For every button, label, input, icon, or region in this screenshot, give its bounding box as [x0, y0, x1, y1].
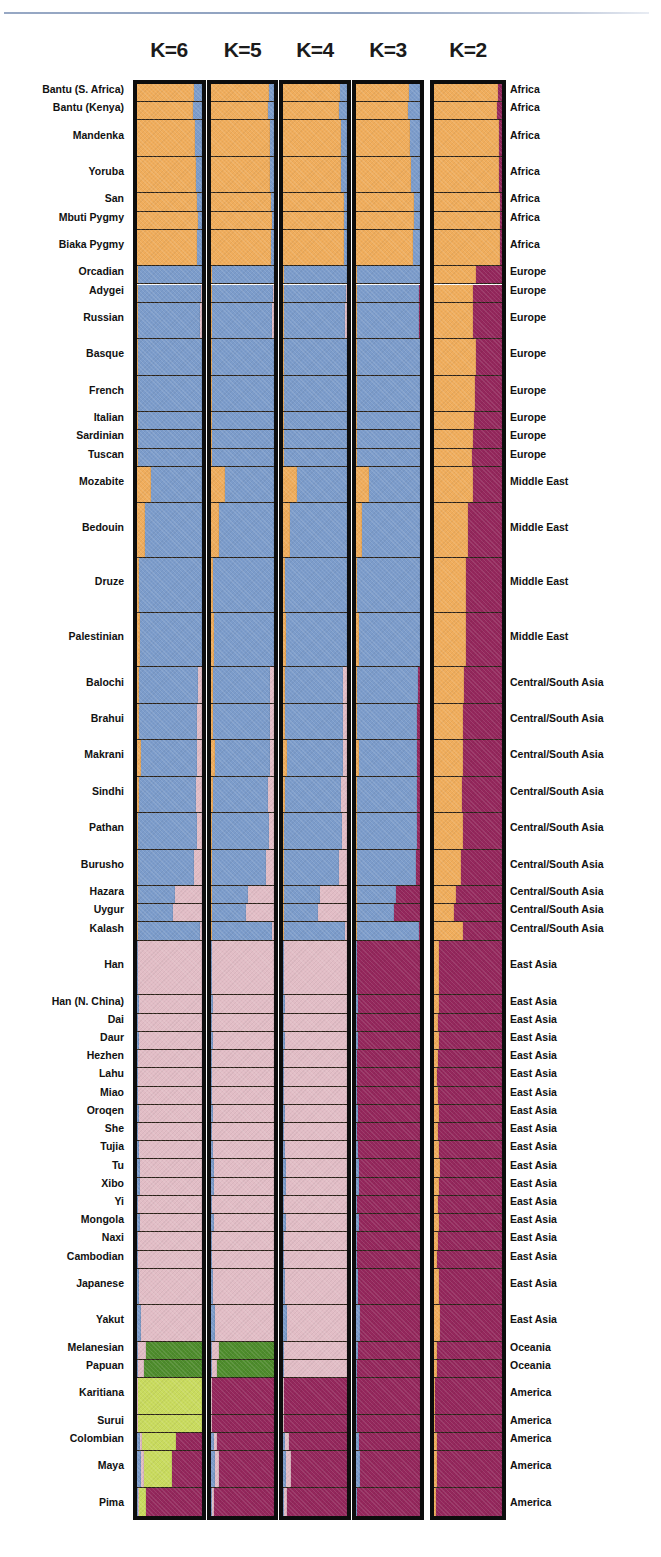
panel-k6-plot-area [137, 84, 202, 1516]
ancestry-bar-block [356, 1087, 420, 1105]
population-label: Sardinian [76, 430, 124, 441]
ancestry-segment [211, 212, 272, 229]
ancestry-segment [462, 777, 502, 812]
ancestry-bar-block [283, 1342, 347, 1360]
ancestry-bar-block [137, 84, 202, 102]
ancestry-segment [357, 704, 417, 739]
ancestry-bar-block [356, 503, 420, 558]
ancestry-segment [437, 1433, 502, 1450]
ancestry-bar-block [434, 1123, 502, 1141]
population-label: Mozabite [79, 476, 124, 487]
ancestry-segment [466, 558, 502, 612]
region-label: East Asia [510, 1105, 557, 1116]
region-label: East Asia [510, 1250, 557, 1261]
ancestry-segment [362, 503, 420, 557]
ancestry-segment [289, 1433, 347, 1450]
ancestry-bar-block [356, 704, 420, 740]
ancestry-bar-block [434, 1214, 502, 1232]
ancestry-segment [139, 1488, 146, 1516]
ancestry-segment [284, 1360, 347, 1377]
ancestry-segment [138, 412, 202, 429]
ancestry-segment [284, 449, 347, 466]
ancestry-bar-block [283, 339, 347, 375]
ancestry-segment [358, 1032, 420, 1049]
ancestry-bar-block [434, 449, 502, 467]
ancestry-segment [138, 1342, 146, 1359]
ancestry-bar-block [137, 1251, 202, 1269]
ancestry-bar-block [434, 995, 502, 1013]
ancestry-segment [283, 120, 341, 155]
ancestry-segment [213, 1141, 274, 1158]
ancestry-bar-block [137, 430, 202, 448]
ancestry-bar-block [434, 850, 502, 886]
ancestry-bar-block [137, 995, 202, 1013]
ancestry-segment [463, 704, 502, 739]
ancestry-segment [214, 1159, 274, 1176]
ancestry-bar-block [137, 1050, 202, 1068]
ancestry-bar-block [356, 558, 420, 613]
ancestry-segment [344, 230, 347, 265]
ancestry-bar-block [434, 412, 502, 430]
ancestry-segment [434, 157, 499, 192]
ancestry-segment [357, 558, 420, 612]
ancestry-bar-block [211, 704, 274, 740]
ancestry-segment [284, 430, 347, 447]
ancestry-bar-block [434, 740, 502, 776]
population-label: Yakut [96, 1314, 124, 1325]
ancestry-segment [285, 704, 343, 739]
ancestry-bar-block [434, 1342, 502, 1360]
ancestry-segment [439, 941, 502, 995]
ancestry-segment [284, 303, 345, 338]
population-label: Tujia [100, 1141, 124, 1152]
population-label: Hazara [90, 886, 124, 897]
ancestry-segment [284, 922, 345, 939]
ancestry-bar-block [211, 157, 274, 193]
ancestry-bar-block [283, 1488, 347, 1516]
ancestry-segment [140, 1159, 202, 1176]
ancestry-bar-block [137, 740, 202, 776]
ancestry-bar-block [211, 1269, 274, 1305]
ancestry-segment [437, 1251, 502, 1268]
ancestry-bar-block [137, 467, 202, 503]
population-label: Brahui [91, 713, 124, 724]
ancestry-segment [144, 1360, 202, 1377]
ancestry-segment [358, 1342, 420, 1359]
ancestry-bar-block [283, 1050, 347, 1068]
ancestry-bar-block [283, 376, 347, 412]
ancestry-segment [213, 1269, 274, 1304]
region-label: East Asia [510, 1123, 557, 1134]
ancestry-segment [357, 1123, 420, 1140]
region-label: Middle East [510, 576, 568, 587]
ancestry-segment [212, 430, 274, 447]
ancestry-segment [285, 1032, 347, 1049]
ancestry-bar-block [434, 1251, 502, 1269]
ancestry-bar-block [283, 467, 347, 503]
ancestry-segment [343, 704, 347, 739]
ancestry-segment [434, 339, 476, 374]
ancestry-bar-block [283, 412, 347, 430]
ancestry-bar-block [434, 157, 502, 193]
ancestry-segment [137, 84, 194, 101]
ancestry-bar-block [211, 813, 274, 849]
ancestry-segment [138, 1068, 202, 1085]
population-label: Sindhi [92, 786, 124, 797]
ancestry-segment [284, 1014, 347, 1031]
ancestry-segment [343, 740, 347, 775]
ancestry-segment [151, 467, 202, 502]
ancestry-segment [212, 922, 272, 939]
ancestry-segment [284, 1087, 347, 1104]
ancestry-bar-block [356, 1014, 420, 1032]
ancestry-bar-block [434, 1378, 502, 1414]
ancestry-segment [434, 285, 473, 302]
ancestry-bar-block [356, 1305, 420, 1341]
ancestry-bar-block [211, 777, 274, 813]
ancestry-bar-block [211, 1360, 274, 1378]
ancestry-segment [285, 1141, 347, 1158]
ancestry-bar-block [211, 1232, 274, 1250]
region-label: East Asia [510, 1196, 557, 1207]
ancestry-segment [434, 120, 499, 155]
ancestry-segment [212, 1050, 274, 1067]
ancestry-bar-block [211, 339, 274, 375]
ancestry-segment [417, 740, 420, 775]
ancestry-segment [357, 266, 420, 283]
